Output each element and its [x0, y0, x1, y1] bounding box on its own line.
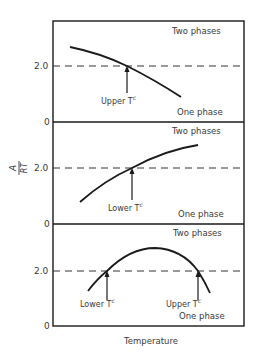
panel-1: Two phases One phase Upper Tc: [70, 26, 223, 117]
y-axis-label: A RT: [8, 161, 29, 175]
region-two-phases-label: Two phases: [171, 26, 221, 36]
tick-0-panel-2: 0: [44, 219, 50, 229]
tick-0-panel-3: 0: [44, 321, 50, 331]
lower-tc-label: Lower Tc: [80, 297, 115, 309]
outer-border: [53, 21, 244, 326]
region-one-phase-label: One phase: [179, 311, 225, 321]
phase-boundary-curve: [80, 145, 198, 202]
x-axis-label: Temperature: [123, 336, 178, 346]
panel-3: Two phases One phase Lower Tc Upper Tc: [80, 228, 225, 321]
reference-lines: [53, 66, 244, 271]
tick-0-panel-1: 0: [44, 117, 50, 127]
region-one-phase-label: One phase: [178, 209, 224, 219]
region-two-phases-label: Two phases: [171, 126, 221, 136]
y-ticks: 2.0 0 2.0 0 2.0 0: [34, 61, 50, 331]
region-one-phase-label: One phase: [177, 107, 223, 117]
tick-2-panel-3: 2.0: [34, 266, 49, 276]
phase-diagram-figure: 2.0 0 2.0 0 2.0 0 A RT Temperature Two p…: [0, 0, 260, 355]
upper-tc-label: Upper Tc: [166, 297, 202, 309]
lower-tc-label: Lower Tc: [108, 201, 143, 213]
region-two-phases-label: Two phases: [172, 228, 222, 238]
panels-frame: [53, 21, 244, 326]
tick-2-panel-2: 2.0: [34, 163, 49, 173]
panel-2: Two phases One phase Lower Tc: [80, 126, 224, 219]
tick-2-panel-1: 2.0: [34, 61, 49, 71]
y-label-denominator: RT: [20, 162, 29, 174]
upper-tc-label: Upper Tc: [101, 94, 137, 106]
y-label-numerator: A: [8, 165, 18, 172]
